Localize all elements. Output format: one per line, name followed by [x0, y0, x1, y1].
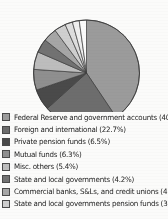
pie-chart [0, 0, 168, 112]
pie-slice-group [33, 20, 139, 112]
legend-swatch [2, 163, 10, 171]
legend-swatch [2, 200, 10, 208]
legend-item: Mutual funds (6.3%) [0, 148, 168, 160]
legend-item: Misc. others (5.4%) [0, 161, 168, 173]
chart-legend: Federal Reserve and government accounts … [0, 111, 168, 219]
chart-page: Federal Reserve and government accounts … [0, 0, 168, 219]
legend-item-label: Misc. others (5.4%) [14, 162, 78, 171]
legend-item-label: Mutual funds (6.3%) [14, 150, 81, 159]
legend-item: Commercial banks, S&Ls, and credit union… [0, 185, 168, 197]
legend-swatch [2, 126, 10, 134]
legend-item-label: Private pension funds (6.5%) [14, 137, 110, 146]
legend-item-label: Federal Reserve and government accounts … [14, 113, 168, 122]
legend-item-label: Foreign and international (22.7%) [14, 125, 126, 134]
legend-swatch [2, 138, 10, 146]
pie-chart-svg [0, 0, 168, 112]
legend-item: State and local governments pension fund… [0, 198, 168, 210]
legend-swatch [2, 150, 10, 158]
legend-swatch [2, 188, 10, 196]
legend-item-label: State and local governments (4.2%) [14, 175, 134, 184]
legend-item: State and local governments (4.2%) [0, 173, 168, 185]
legend-swatch [2, 113, 10, 121]
legend-item: Federal Reserve and government accounts … [0, 111, 168, 123]
legend-swatch [2, 175, 10, 183]
legend-item: Foreign and international (22.7%) [0, 123, 168, 135]
legend-item: Private pension funds (6.5%) [0, 136, 168, 148]
legend-item-label: Commercial banks, S&Ls, and credit union… [14, 187, 168, 196]
legend-item-label: State and local governments pension fund… [14, 199, 168, 208]
